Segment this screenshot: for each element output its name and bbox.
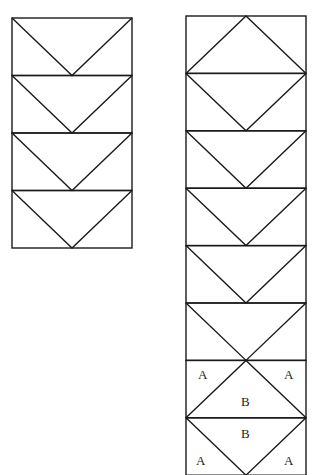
quilt-diagram: A A B B A A [0,0,321,475]
strip-row [12,133,132,191]
label-a-top-right: A [284,367,294,382]
strip-row [12,191,132,249]
strip-row [186,246,306,303]
label-a-bottom-left: A [196,453,206,468]
strip-row [186,188,306,245]
strip-row [186,16,306,73]
strip-row [12,76,132,134]
label-a-bottom-right: A [284,453,294,468]
label-b-lower: B [241,426,250,441]
strip-row [12,18,132,76]
strip-row [186,73,306,130]
label-a-top-left: A [198,367,208,382]
label-b-upper: B [241,394,250,409]
strip-row [186,303,306,360]
left-strip [12,18,132,248]
strip-row [186,131,306,188]
